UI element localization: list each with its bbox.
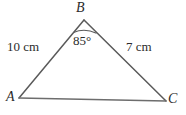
triangle-drawing — [0, 0, 186, 115]
triangle-side-ac — [19, 98, 166, 101]
side-length-label-bc: 7 cm — [126, 40, 152, 53]
triangle-side-bc — [84, 20, 166, 101]
side-length-label-ab: 10 cm — [7, 40, 39, 53]
angle-measure-label-b: 85° — [73, 34, 91, 47]
vertex-label-a: A — [6, 90, 15, 104]
triangle-figure: B A C 10 cm 7 cm 85° — [0, 0, 186, 115]
vertex-label-b: B — [76, 1, 85, 15]
vertex-label-c: C — [168, 92, 177, 106]
